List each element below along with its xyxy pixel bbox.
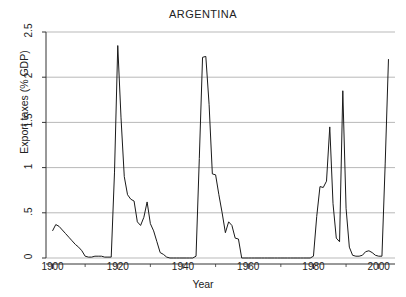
x-tick-label: 1900 xyxy=(33,261,73,272)
y-tick-label: .5 xyxy=(23,196,34,226)
axis-lines xyxy=(46,32,395,264)
x-tick-label: 1960 xyxy=(228,261,268,272)
x-tick-label: 2000 xyxy=(359,261,399,272)
x-tick-label: 1920 xyxy=(98,261,138,272)
x-tick-label: 1980 xyxy=(293,261,333,272)
x-tick-label: 1940 xyxy=(163,261,203,272)
y-tick-label: 2.5 xyxy=(23,16,34,46)
chart-figure: ARGENTINA Export taxes (% GDP) Year 0.51… xyxy=(0,0,406,297)
y-tick-label: 1 xyxy=(23,151,34,181)
plot-canvas xyxy=(0,0,406,297)
y-tick-label: 2 xyxy=(23,61,34,91)
y-tick-label: 1.5 xyxy=(23,106,34,136)
gridlines xyxy=(46,32,395,258)
